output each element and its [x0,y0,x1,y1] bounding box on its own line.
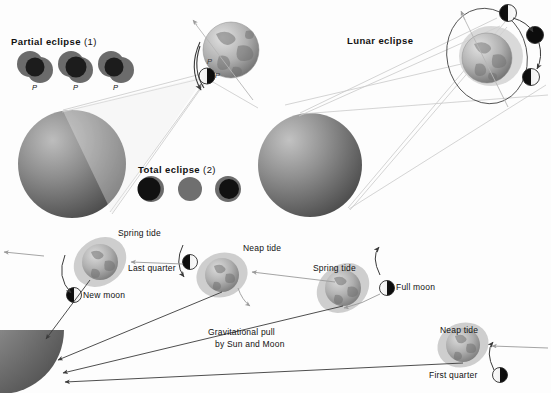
partial-eclipse-figure-3 [98,51,134,83]
sun-tides [0,266,64,393]
moon-full-moon [380,281,395,296]
total-eclipse-figure-3 [215,176,241,202]
partial-eclipse-figure-1 [17,51,53,83]
partial-eclipse-number: (1) [84,36,97,47]
total-eclipse-number: (2) [203,164,216,175]
earth-neap-tide-left [190,245,254,304]
spring-tide-label-left: Spring tide [118,228,161,238]
earth-penumbra-label-2: P [215,71,220,80]
neap-tide-label-left: Neap tide [243,243,281,253]
earth-penumbra-label-1: P [207,57,212,66]
new-moon-label: New moon [83,290,125,300]
total-eclipse-figure-2 [178,177,202,201]
partial-eclipse-title-text: Partial eclipse [11,36,81,47]
total-eclipse-title-text: Total eclipse [138,164,200,175]
sun-lunar-eclipse [258,113,362,217]
partial-eclipse-figure-2 [58,51,93,83]
total-eclipse-title: Total eclipse (2) [138,164,216,175]
earth-lunar-eclipse [459,26,523,86]
moon-orbit-arcs-tides [62,245,494,370]
total-eclipse-figure-1 [138,176,165,202]
lunar-eclipse-title: Lunar eclipse [347,35,413,46]
moon-solar-eclipse [199,68,215,84]
spring-tide-label-right: Spring tide [313,263,356,273]
penumbra-label-1: P [32,83,37,92]
neap-tide-label-right: Neap tide [440,325,478,335]
penumbra-label-2: P [73,83,78,92]
gravitational-pull-label-line1: Gravitational pull [208,327,275,337]
gravitational-pull-label-line2: by Sun and Moon [215,339,285,349]
last-quarter-label: Last quarter [128,263,176,273]
moon-last-quarter [183,255,198,270]
moon-first-quarter [493,368,508,383]
partial-eclipse-title: Partial eclipse (1) [11,36,97,47]
eclipse-and-tides-diagram: Partial eclipse (1) Total eclipse (2) Lu… [0,0,551,393]
moon-upper [500,5,517,22]
total-eclipse-figures [138,176,242,202]
penumbra-label-3: P [113,83,118,92]
full-moon-label: Full moon [396,282,435,292]
moon-lower [523,69,540,86]
first-quarter-label: First quarter [429,370,477,380]
moon-eclipsed [527,27,544,44]
partial-eclipse-figures [17,51,134,83]
